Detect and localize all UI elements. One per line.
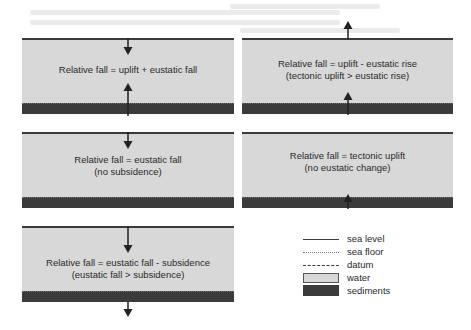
legend-item-sea-floor: sea floor <box>303 245 390 258</box>
basement-down-arrow-icon <box>123 302 133 318</box>
caption-line-1: Relative fall = eustatic fall <box>22 154 234 166</box>
panel-caption: Relative fall = eustatic fall - subsiden… <box>22 257 234 281</box>
caption-line-1: Relative fall = uplift - eustatic rise <box>242 58 453 70</box>
legend-label: sediments <box>347 285 390 297</box>
solid-line-icon <box>303 234 339 244</box>
panel-caption: Relative fall = uplift + eustatic fall <box>22 64 234 76</box>
sea-level-down-arrow-icon <box>123 38 133 56</box>
basement-up-arrow-icon <box>123 82 133 116</box>
caption-line-2: (eustatic fall > subsidence) <box>22 269 234 281</box>
caption-line-2: (tectonic uplift > eustatic rise) <box>242 70 453 82</box>
caption-line-2: (no subsidence) <box>22 166 234 178</box>
legend-label: datum <box>347 259 373 271</box>
legend-item-datum: datum <box>303 258 390 271</box>
sea-level-down-arrow-icon <box>123 226 133 254</box>
legend-label: sea floor <box>347 246 383 258</box>
basement-up-arrow-icon <box>343 91 353 115</box>
sea-level-down-arrow-icon <box>123 132 133 150</box>
sediments-layer <box>22 291 234 302</box>
sediments-layer <box>22 197 234 208</box>
panel-caption: Relative fall = eustatic fall (no subsid… <box>22 154 234 178</box>
panel-caption: Relative fall = tectonic uplift (no eust… <box>242 150 453 174</box>
caption-line-2: (no eustatic change) <box>242 162 453 174</box>
basement-up-arrow-icon <box>343 193 353 209</box>
legend: sea level sea floor datum water sediment… <box>303 232 390 297</box>
caption-line-1: Relative fall = uplift + eustatic fall <box>22 64 234 76</box>
sea-level-line <box>242 132 453 134</box>
legend-item-sediments: sediments <box>303 284 390 297</box>
water-swatch-icon <box>303 273 339 283</box>
sediments-swatch-icon <box>303 285 339 296</box>
legend-label: water <box>347 272 370 284</box>
dotted-line-icon <box>303 247 339 257</box>
legend-item-water: water <box>303 271 390 284</box>
legend-item-sea-level: sea level <box>303 232 390 245</box>
legend-label: sea level <box>347 233 385 245</box>
panel-caption: Relative fall = uplift - eustatic rise (… <box>242 58 453 82</box>
caption-line-1: Relative fall = eustatic fall - subsiden… <box>22 257 234 269</box>
caption-line-1: Relative fall = tectonic uplift <box>242 150 453 162</box>
sea-level-up-arrow-icon <box>343 20 353 39</box>
dashed-line-icon <box>303 260 339 270</box>
